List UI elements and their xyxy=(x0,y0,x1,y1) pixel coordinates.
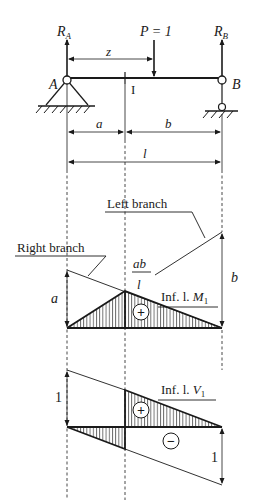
dimension-lines: a b l xyxy=(67,84,222,170)
moment-line-title: Inf. l. M1 xyxy=(161,289,208,306)
l-label: l xyxy=(143,146,147,161)
svg-text:+: + xyxy=(137,403,145,418)
z-label: z xyxy=(105,44,111,59)
ordinate-right-label: 1 xyxy=(211,450,218,465)
svg-text:−: − xyxy=(167,434,175,449)
ordinate-b-label: b xyxy=(231,270,238,285)
pin-support-a xyxy=(36,76,95,113)
a-label: a xyxy=(96,116,103,131)
influence-line-shear: 1 1 Inf. l. V1 + − xyxy=(55,370,222,485)
b-label: b xyxy=(165,116,172,131)
ordinate-a-label: a xyxy=(51,291,58,306)
peak-denominator: l xyxy=(137,277,141,292)
section-label: I xyxy=(131,82,135,97)
reaction-b-label: RB xyxy=(213,24,229,41)
influence-line-diagram: RA RB P = 1 z I A xyxy=(0,0,255,504)
influence-line-moment: a b ab l Left branch Right branch Inf. l… xyxy=(15,196,238,328)
reaction-a-label: RA xyxy=(56,24,72,41)
support-a-label: A xyxy=(48,77,58,92)
ordinate-left-label: 1 xyxy=(55,390,62,405)
load-label: P = 1 xyxy=(139,24,172,39)
support-b-label: B xyxy=(232,77,241,92)
right-branch-label: Right branch xyxy=(17,240,85,255)
svg-text:+: + xyxy=(137,305,145,320)
shear-line-title: Inf. l. V1 xyxy=(161,382,205,399)
left-branch-label: Left branch xyxy=(107,196,168,211)
left-branch-line xyxy=(155,232,222,275)
peak-numerator: ab xyxy=(133,256,147,271)
